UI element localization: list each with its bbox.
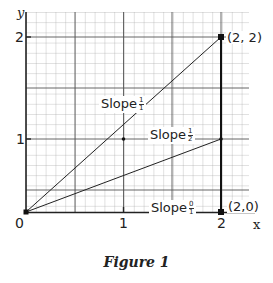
slope-label-half: Slope12 (148, 127, 195, 144)
x-tick-0: 0 (15, 216, 24, 230)
y-tick-1: 1 (16, 132, 25, 146)
point-origin (24, 210, 29, 215)
point-label-2-0: (2,0) (227, 200, 260, 213)
x-axis-label: x (253, 218, 260, 231)
figure-caption: Figure 1 (0, 254, 273, 270)
point-1-1 (122, 137, 126, 141)
slope-label-zero: Slope01 (149, 200, 196, 217)
point-2-1 (219, 137, 223, 141)
point-label-2-2: (2, 2) (226, 31, 263, 44)
y-tick-2: 2 (15, 30, 24, 44)
y-axis-label: y (17, 6, 24, 19)
x-tick-1: 1 (119, 216, 128, 230)
x-tick-2: 2 (217, 216, 226, 230)
point-2-2 (218, 34, 224, 40)
slope-label-1: Slope11 (99, 96, 146, 113)
